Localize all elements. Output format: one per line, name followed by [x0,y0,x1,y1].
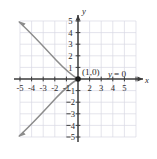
y-axis-negative-labels: 1 2 3 4 5 [71,86,76,142]
x-axis-positive-labels: 2 3 4 5 [87,83,126,93]
y-axis-name-label: y [81,6,86,16]
x-tick-label-neg3: -3 [40,83,47,93]
graph-figure: -5 -4 -3 -2 -1 2 3 4 5 5 4 3 2 1 1 2 3 4… [0,0,157,159]
x-tick-label-neg2: -2 [51,83,58,93]
y-tick-label-neg4: 4 [71,121,76,131]
equation-expression: = 0 [114,69,126,79]
y-tick-label-neg5: 5 [71,132,75,142]
y-tick-label-2: 2 [68,51,72,61]
vertex-point-label: (1,0) [82,67,100,77]
y-tick-label-neg3: 3 [71,109,75,119]
x-tick-label-3: 3 [99,83,103,93]
y-axis-arrowhead [76,15,81,21]
x-tick-label-4: 4 [111,83,116,93]
x-tick-label-5: 5 [122,83,126,93]
y-axis-positive-labels: 5 4 3 2 1 [68,16,73,72]
y-tick-label-3: 3 [68,39,72,49]
y-tick-label-neg2: 2 [71,97,75,107]
coordinate-plane-graph: -5 -4 -3 -2 -1 2 3 4 5 5 4 3 2 1 1 2 3 4… [0,0,157,159]
equation-variable: y [107,69,113,79]
y-tick-label-1: 1 [68,63,72,73]
x-axis-negative-labels: -5 -4 -3 -2 -1 [16,83,70,93]
y-tick-label-4: 4 [68,28,73,38]
y-tick-label-5: 5 [68,16,72,26]
x-tick-label-neg1: -1 [63,83,70,93]
curve-arrowhead-lower-left [18,131,25,137]
equation-label: y = 0 [107,69,126,79]
curve-arrowhead-upper-left [18,21,25,27]
x-tick-label-neg4: -4 [28,83,36,93]
x-axis-arrowhead [137,77,143,82]
vertex-point-marker [75,76,81,82]
x-tick-label-neg5: -5 [16,83,23,93]
y-tick-label-neg1: 1 [71,86,75,96]
x-axis-name-label: x [144,75,149,85]
x-tick-label-2: 2 [87,83,91,93]
